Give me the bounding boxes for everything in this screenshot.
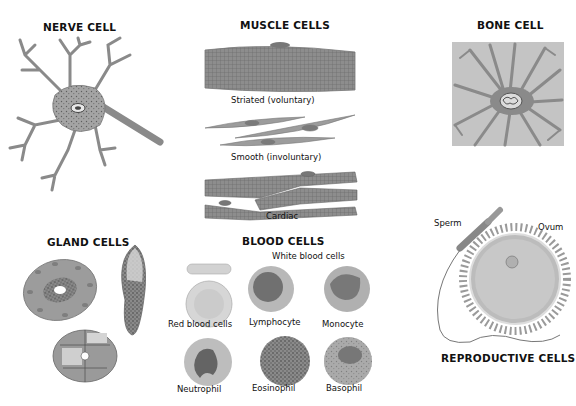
blood-cells-title: BLOOD CELLS xyxy=(242,235,325,247)
neutrophil-label: Neutrophil xyxy=(177,384,221,394)
cell-illustrations xyxy=(0,0,576,406)
red-blood-cells-label: Red blood cells xyxy=(168,319,232,329)
smooth-muscle-label: Smooth (involuntary) xyxy=(231,152,321,162)
white-blood-cells-label: White blood cells xyxy=(272,251,345,261)
muscle-cells-title: MUSCLE CELLS xyxy=(240,19,330,31)
bone-cell-title: BONE CELL xyxy=(477,19,544,31)
monocyte-label: Monocyte xyxy=(322,319,363,329)
bone-cell-illustration xyxy=(452,42,564,146)
reproductive-cells-title: REPRODUCTIVE CELLS xyxy=(441,352,575,364)
striated-muscle-label: Striated (voluntary) xyxy=(231,95,315,105)
cardiac-muscle-label: Cardiac xyxy=(266,211,298,221)
gland-cells-title: GLAND CELLS xyxy=(47,236,130,248)
basophil-label: Basophil xyxy=(326,383,362,393)
nerve-cell-title: NERVE CELL xyxy=(43,21,116,33)
lymphocyte-label: Lymphocyte xyxy=(249,317,301,327)
ovum-label: Ovum xyxy=(538,222,563,232)
smooth-muscle-illustration xyxy=(205,115,355,146)
eosinophil-label: Eosinophil xyxy=(252,383,295,393)
striated-muscle-illustration xyxy=(205,42,355,92)
gland-cells-illustration xyxy=(16,245,145,382)
sperm-label: Sperm xyxy=(434,218,462,228)
